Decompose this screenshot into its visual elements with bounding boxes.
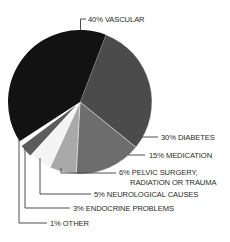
label-medication: 15% MEDICATION — [149, 151, 212, 160]
label-vascular: 40% VASCULAR — [88, 15, 145, 24]
pie-slices — [8, 30, 152, 174]
label-pelvic-line2: RADIATION OR TRAUMA — [130, 178, 217, 187]
pie-chart: 40% VASCULAR 30% DIABETES 15% MEDICATION… — [0, 0, 230, 242]
label-neurological: 5% NEUROLOGICAL CAUSES — [94, 190, 198, 199]
label-diabetes: 30% DIABETES — [161, 133, 215, 142]
label-other: 1% OTHER — [50, 219, 89, 228]
leader-vascular — [81, 19, 87, 30]
label-endocrine: 3% ENDOCRINE PROBLEMS — [73, 204, 174, 213]
label-pelvic-line1: 6% PELVIC SURGERY, — [119, 168, 197, 177]
